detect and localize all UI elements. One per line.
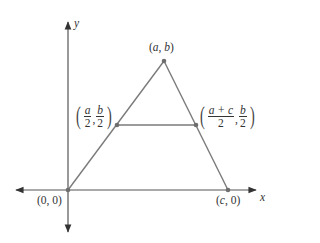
apex-label: (a, b) bbox=[149, 42, 174, 54]
fraction-y: b 2 bbox=[239, 104, 247, 129]
right-vertex-label: (c, 0) bbox=[216, 195, 240, 207]
x-axis-label: x bbox=[260, 192, 265, 204]
fraction-x: a + c 2 bbox=[208, 104, 234, 129]
fraction-y: b 2 bbox=[96, 104, 104, 129]
left-midpoint-label: ( a 2 , b 2 ) bbox=[74, 103, 114, 129]
right-midpoint-label: ( a + c 2 , b 2 ) bbox=[198, 103, 256, 129]
point-right-vertex bbox=[226, 188, 231, 193]
y-axis-label: y bbox=[74, 18, 79, 30]
point-apex bbox=[162, 59, 167, 64]
fraction-x: a 2 bbox=[84, 104, 92, 129]
point-origin bbox=[66, 188, 71, 193]
point-left-midpoint bbox=[115, 123, 120, 128]
origin-label: (0, 0) bbox=[37, 195, 62, 207]
